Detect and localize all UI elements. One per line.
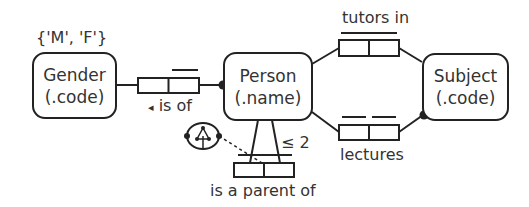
entity-subject[interactable]: Subject (.code) — [422, 53, 509, 121]
reading-lectures: lectures — [340, 145, 404, 164]
connector-person-tutors — [312, 48, 339, 64]
reading-tutorsin: tutors in — [342, 8, 409, 27]
reading-parent: is a parent of — [210, 181, 316, 200]
connector-person-parent-2 — [272, 120, 280, 163]
reading-isof: ◂ is of — [148, 96, 192, 115]
entity-name: Gender — [43, 64, 106, 86]
connector-person-lectures — [312, 112, 339, 132]
entity-refmode: (.code) — [45, 86, 105, 108]
entity-name: Subject — [434, 65, 498, 87]
frequency-constraint: ≤ 2 — [281, 133, 310, 152]
entity-gender[interactable]: Gender (.code) — [32, 52, 117, 119]
reading-arrow-left-icon: ◂ — [148, 101, 154, 114]
entity-name: Person — [239, 65, 296, 87]
connector-tutors-subject — [399, 48, 422, 62]
entity-refmode: (.name) — [235, 87, 302, 109]
ring-constraint-link — [219, 136, 262, 163]
entity-refmode: (.code) — [436, 87, 496, 109]
value-constraint-gender: {'M', 'F'} — [36, 28, 107, 47]
entity-person[interactable]: Person (.name) — [223, 52, 313, 121]
connector-lectures-subject — [399, 115, 423, 132]
